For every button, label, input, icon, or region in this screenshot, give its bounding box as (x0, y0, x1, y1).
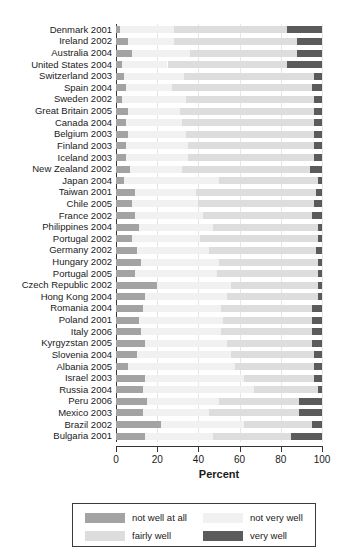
y-axis-tick-label: Sweden 2002 (0, 94, 112, 103)
bar-segment (126, 142, 188, 149)
y-axis-tick-label: Ireland 2002 (0, 36, 112, 45)
bar-segment (196, 189, 315, 196)
bar-segment (318, 177, 322, 184)
bar-row (116, 84, 322, 91)
legend-label: not well at all (132, 512, 187, 524)
bar-segment (198, 200, 313, 207)
bar-segment (116, 38, 128, 45)
bar-segment (314, 131, 322, 138)
y-axis-tick-label: Kyrgyzstan 2005 (0, 338, 112, 347)
bar-row (116, 50, 322, 57)
bar-segment (120, 26, 174, 33)
bar-segment (172, 84, 312, 91)
bar-segment (182, 166, 310, 173)
y-axis-tick-label: Israel 2003 (0, 373, 112, 382)
bar-row (116, 259, 322, 266)
x-axis-tick (240, 447, 241, 452)
bar-segment (318, 270, 322, 277)
bar-segment (126, 154, 188, 161)
bar-segment (135, 189, 197, 196)
bar-row (116, 247, 322, 254)
x-axis-tick (157, 447, 158, 452)
bar-segment (312, 421, 322, 428)
bar-segment (116, 317, 139, 324)
bar-segment (116, 409, 143, 416)
bar-segment (188, 154, 314, 161)
legend-swatch (85, 513, 125, 523)
x-axis-title: Percent (116, 468, 322, 480)
bar-row (116, 96, 322, 103)
y-axis-tick-label: Slovenia 2004 (0, 350, 112, 359)
bar-row (116, 119, 322, 126)
bar-segment (116, 363, 128, 370)
bar-segment (318, 224, 322, 231)
bar-segment (116, 119, 126, 126)
bar-segment (130, 166, 182, 173)
x-axis-tick-label: 80 (261, 454, 301, 465)
bar-segment (135, 212, 203, 219)
bar-segment (116, 84, 126, 91)
bar-segment (223, 317, 312, 324)
bar-segment (141, 328, 221, 335)
bar-segment (139, 317, 223, 324)
bar-row (116, 108, 322, 115)
bar-row (116, 212, 322, 219)
y-axis-tick-label: France 2002 (0, 211, 112, 220)
bar-segment (314, 375, 322, 382)
x-axis-tick (322, 447, 323, 452)
bar-segment (314, 142, 322, 149)
bar-segment (139, 224, 213, 231)
bar-row (116, 305, 322, 312)
bar-segment (318, 235, 322, 242)
y-axis-tick-label: Germany 2002 (0, 245, 112, 254)
bar-segment (221, 328, 312, 335)
stacked-bar-chart: Denmark 2001Ireland 2002Australia 2004Un… (0, 0, 337, 555)
bar-segment (299, 398, 322, 405)
y-axis-tick-label: Peru 2006 (0, 396, 112, 405)
y-axis-tick-label: Romania 2004 (0, 303, 112, 312)
bar-row (116, 26, 322, 33)
bar-row (116, 189, 322, 196)
bar-row (116, 409, 322, 416)
bar-segment (116, 282, 157, 289)
bar-segment (116, 177, 124, 184)
bar-segment (244, 375, 314, 382)
bar-segment (312, 328, 322, 335)
bar-row (116, 224, 322, 231)
bar-segment (254, 386, 318, 393)
bar-segment (314, 363, 322, 370)
bar-segment (135, 270, 217, 277)
y-axis-tick-label: Canada 2004 (0, 118, 112, 127)
y-axis-tick-label: Italy 2006 (0, 327, 112, 336)
y-axis-tick-label: Denmark 2001 (0, 25, 112, 34)
x-axis-tick-label: 0 (96, 454, 136, 465)
bar-row (116, 61, 322, 68)
bar-segment (244, 421, 312, 428)
bar-segment (174, 26, 287, 33)
bar-segment (312, 305, 322, 312)
bar-segment (287, 61, 322, 68)
bar-segment (314, 200, 322, 207)
bar-segment (297, 38, 322, 45)
bar-segment (219, 259, 318, 266)
bar-segment (116, 270, 135, 277)
y-axis-tick-label: Hungary 2002 (0, 257, 112, 266)
bar-segment (312, 340, 322, 347)
bar-segment (186, 96, 314, 103)
x-axis-tick-label: 20 (137, 454, 177, 465)
bar-segment (137, 351, 232, 358)
bar-row (116, 270, 322, 277)
bar-segment (116, 293, 145, 300)
bar-segment (168, 61, 287, 68)
x-axis-tick-label: 40 (178, 454, 218, 465)
bar-row (116, 293, 322, 300)
x-axis-tick (281, 447, 282, 452)
bar-segment (217, 270, 318, 277)
x-axis-line (116, 446, 323, 447)
bar-segment (184, 73, 314, 80)
bar-segment (227, 340, 311, 347)
bar-segment (141, 259, 219, 266)
bar-segment (219, 177, 318, 184)
y-axis-tick-label: Australia 2004 (0, 48, 112, 57)
bar-segment (124, 177, 219, 184)
